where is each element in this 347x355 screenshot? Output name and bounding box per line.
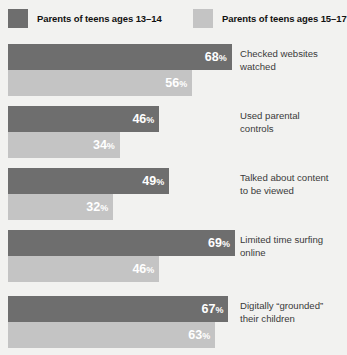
bar-value-label: 56%	[165, 77, 192, 90]
chart-legend: Parents of teens ages 13–14 Parents of t…	[0, 0, 346, 36]
legend-item-teens-13-14: Parents of teens ages 13–14	[8, 9, 162, 28]
bar-teens-13-14: 68%	[8, 44, 232, 70]
bar-row-light: 63%	[0, 322, 346, 348]
bar-group: 69% 46% Limited time surfing online	[0, 230, 346, 282]
bar-teens-15-17: 34%	[8, 132, 120, 158]
bar-value-label: 49%	[142, 175, 169, 188]
legend-swatch-light-icon	[193, 9, 213, 28]
group-category-label: Used parental controls	[240, 110, 344, 135]
bar-group: 46% 34% Used parental controls	[0, 106, 346, 158]
bar-value-label: 68%	[205, 51, 232, 64]
group-category-label: Checked websites watched	[240, 48, 344, 73]
bar-value-label: 63%	[188, 329, 215, 342]
legend-item-teens-15-17: Parents of teens ages 15–17	[193, 9, 347, 28]
bar-row-light: 34%	[0, 132, 346, 158]
bar-value-label: 34%	[93, 139, 120, 152]
bar-teens-13-14: 67%	[8, 296, 228, 322]
group-category-label: Digitally “grounded” their children	[240, 300, 344, 325]
group-category-label: Talked about content to be viewed	[240, 172, 344, 197]
bar-teens-15-17: 56%	[8, 70, 192, 96]
bar-teens-15-17: 46%	[8, 256, 159, 282]
bar-value-label: 69%	[208, 237, 235, 250]
bar-group: 68% 56% Checked websites watched	[0, 44, 346, 96]
bar-teens-15-17: 63%	[8, 322, 215, 348]
bar-value-label: 46%	[132, 263, 159, 276]
legend-swatch-dark-icon	[8, 9, 28, 28]
bar-row-light: 32%	[0, 194, 346, 220]
legend-label-teens-15-17: Parents of teens ages 15–17	[222, 13, 347, 24]
bar-group: 49% 32% Talked about content to be viewe…	[0, 168, 346, 220]
bar-teens-13-14: 49%	[8, 168, 169, 194]
bar-value-label: 46%	[132, 113, 159, 126]
bar-value-label: 67%	[202, 303, 229, 316]
bar-value-label: 32%	[86, 201, 113, 214]
bar-teens-13-14: 46%	[8, 106, 159, 132]
legend-label-teens-13-14: Parents of teens ages 13–14	[37, 13, 162, 24]
bar-teens-13-14: 69%	[8, 230, 235, 256]
bar-row-light: 56%	[0, 70, 346, 96]
group-category-label: Limited time surfing online	[240, 234, 344, 259]
bar-group: 67% 63% Digitally “grounded” their child…	[0, 296, 346, 348]
bar-teens-15-17: 32%	[8, 194, 113, 220]
bar-row-light: 46%	[0, 256, 346, 282]
